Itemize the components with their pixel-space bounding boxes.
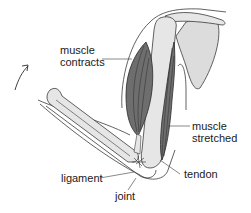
leader-ligament: [100, 172, 134, 178]
skin-outline-inner: [178, 64, 186, 110]
motion-arrow-icon: [15, 65, 28, 90]
label-muscle-stretched-line1: muscle: [192, 120, 237, 132]
leader-tendon: [160, 160, 180, 174]
label-muscle-contracts-line2: contracts: [60, 56, 105, 68]
arm-illustration: [0, 0, 251, 213]
leader-joint: [128, 178, 136, 190]
scapula: [176, 19, 219, 89]
label-muscle-stretched-line2: stretched: [192, 132, 237, 144]
biceps-tendon: [134, 134, 141, 154]
label-muscle-contracts: muscle contracts: [60, 44, 105, 68]
label-muscle-contracts-line1: muscle: [60, 44, 105, 56]
label-ligament: ligament: [61, 172, 103, 184]
arm-muscle-diagram: muscle contracts muscle stretched ligame…: [0, 0, 251, 213]
label-tendon: tendon: [184, 168, 218, 180]
label-joint: joint: [115, 190, 135, 202]
forearm-bone-line: [56, 100, 130, 156]
forearm-bones: [47, 88, 139, 162]
label-muscle-stretched: muscle stretched: [192, 120, 237, 144]
